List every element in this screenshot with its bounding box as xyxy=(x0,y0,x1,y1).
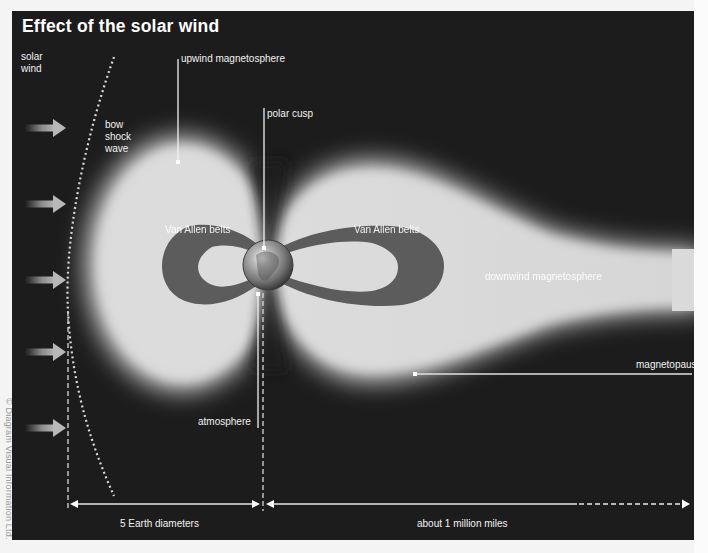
arrow-icon xyxy=(25,271,66,289)
scale-label-left: 5 Earth diameters xyxy=(120,518,199,530)
label-downwind-magnetosphere: downwind magnetosphere xyxy=(485,271,602,283)
earth-globe xyxy=(243,240,293,290)
label-atmosphere: atmosphere xyxy=(198,416,251,428)
label-upwind-magnetosphere: upwind magnetosphere xyxy=(181,53,285,65)
arrow-icon xyxy=(25,419,66,437)
page-margin xyxy=(694,0,708,553)
scale-right-arrow xyxy=(266,500,690,509)
solar-wind-arrows xyxy=(25,119,66,437)
label-van-allen-belts-right: Van Allen belts xyxy=(354,224,419,236)
arrow-icon xyxy=(25,343,66,361)
label-magnetopause: magnetopause xyxy=(636,359,694,371)
arrow-icon xyxy=(25,195,66,213)
downwind-magnetosphere-shape xyxy=(270,161,694,381)
label-bow-shock-wave: bow shock wave xyxy=(105,119,131,155)
diagram-panel: Effect of the solar wind solar wind bow … xyxy=(12,11,694,540)
label-solar-wind: solar wind xyxy=(21,51,43,75)
arrow-icon xyxy=(25,119,66,137)
label-van-allen-belts-left: Van Allen belts xyxy=(165,224,230,236)
diagram-title: Effect of the solar wind xyxy=(22,16,219,37)
label-polar-cusp: polar cusp xyxy=(267,108,313,120)
scale-label-right: about 1 million miles xyxy=(417,518,508,530)
scale-left-arrow xyxy=(70,500,260,508)
